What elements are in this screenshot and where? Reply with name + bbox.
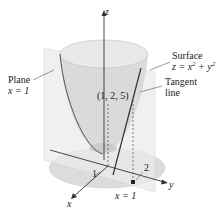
surface-leader xyxy=(150,62,170,70)
x-tick-label: 1 xyxy=(92,168,97,179)
tangent-label-line2: line xyxy=(165,87,180,98)
y-tick-label: 2 xyxy=(144,162,149,173)
point-label: (1, 2, 5) xyxy=(97,90,129,101)
paraboloid-figure xyxy=(0,0,217,209)
z-axis-label: z xyxy=(105,6,109,17)
y-axis-arrow xyxy=(161,180,168,185)
surface-eq-exp2: 2 xyxy=(212,60,216,68)
plane-label-line1: Plane xyxy=(8,74,30,85)
surface-label-line2: z = x2 + y2 xyxy=(172,61,215,72)
surface-eq-part2: + y xyxy=(196,61,212,72)
tangent-label-line1: Tangent xyxy=(165,76,197,87)
x-axis-label: x xyxy=(67,198,71,209)
base-point xyxy=(131,180,135,184)
base-x-equals-1-label: x = 1 xyxy=(115,190,136,201)
y-axis-label: y xyxy=(169,179,173,190)
diagram-stage: z x y 1 2 Plane x = 1 Surface z = x2 + y… xyxy=(0,0,217,209)
surface-eq-part1: z = x xyxy=(172,61,192,72)
surface-label-line1: Surface xyxy=(172,50,203,61)
plane-label-line2: x = 1 xyxy=(8,85,29,96)
